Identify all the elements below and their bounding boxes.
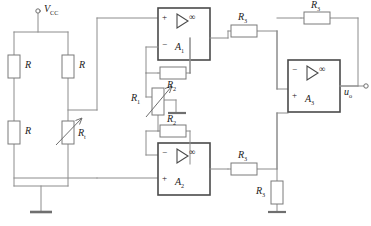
amp2-inverting-pin-label: − [162,148,167,157]
label-resistor-r3-top: R3 [238,12,247,24]
output-terminal-uo [364,84,368,88]
resistor-bridge-bottom-left [8,121,20,144]
vcc-supply-net [14,9,68,32]
circuit-diagram-canvas: VCC R R R Rt R1 R2 R2 R3 R3 R3 R3 + − ∞ … [0,0,371,226]
label-resistor-r2-bottom: R2 [167,114,176,126]
resistor-r3-bottom [231,163,257,175]
amp2-noninverting-pin-label: + [162,174,167,183]
a3-inverting-node-wire [277,113,288,169]
pot-r1-wiper-wire [164,100,176,113]
label-resistor-r2-top: R2 [167,80,176,92]
amp3-infinity-icon: ∞ [319,65,325,74]
label-vcc: VCC [44,4,58,16]
label-output-uo: uo [344,87,352,99]
resistor-r3-feedback [304,12,330,24]
label-bridge-r-top-right: R [79,60,85,70]
label-resistor-r3-bottom: R3 [238,150,247,162]
label-resistor-r3-ground: R3 [256,186,265,198]
a3-noninv-node-wire [277,31,288,89]
resistor-r2-bottom [160,125,186,137]
label-bridge-r-bottom-left: R [25,126,31,136]
label-amp1: A1 [175,42,184,54]
resistor-bridge-top-left [8,55,20,78]
resistor-r2-top [160,67,186,79]
resistor-r3-top [231,25,257,37]
label-bridge-r-top-left: R [25,60,31,70]
label-thermistor-rt: Rt [78,128,86,140]
amp3-inverting-pin-label: − [292,65,297,74]
amp1-infinity-icon: ∞ [189,13,195,22]
amp1-gain-node-wire [146,73,152,97]
amp2-infinity-icon: ∞ [189,148,195,157]
amp1-noninverting-pin-label: + [162,13,167,22]
amp1-inverting-pin-label: − [162,40,167,49]
amp3-noninverting-pin-label: + [292,91,297,100]
resistor-r3-ground [271,181,283,204]
resistor-bridge-top-right [62,55,74,78]
label-amp2: A2 [175,177,184,189]
label-amp3: A3 [305,94,314,106]
pot-r1-bottom-wire [146,115,158,155]
amp1-inverting-input-wire [146,47,158,73]
circuit-schematic [0,0,371,226]
label-resistor-r3-feedback: R3 [311,0,320,12]
bridge-left-branch-wire [14,32,68,186]
label-potentiometer-r1: R1 [131,93,140,105]
